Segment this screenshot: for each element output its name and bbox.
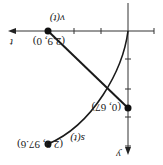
v-end-point <box>45 28 52 35</box>
t-axis-label: t <box>9 37 13 49</box>
v-end-label: (2.9, 0) <box>33 35 65 48</box>
s-end-label: (2.9, 97.6) <box>17 138 63 151</box>
v-curve-label: v(t) <box>49 12 65 25</box>
t-axis-arrow-icon <box>8 28 16 34</box>
y-axis-arrow-icon <box>125 147 131 155</box>
chart: t y (2.9, 0) v(t) (0, 67) s(t) (2.9, 97.… <box>0 0 163 165</box>
chart-svg: t y (2.9, 0) v(t) (0, 67) s(t) (2.9, 97.… <box>0 0 163 165</box>
y-axis-label: y <box>116 149 122 161</box>
v-start-label: (0, 67) <box>91 101 121 114</box>
s-curve-label: s(t) <box>70 132 85 145</box>
v-start-point <box>125 105 132 112</box>
